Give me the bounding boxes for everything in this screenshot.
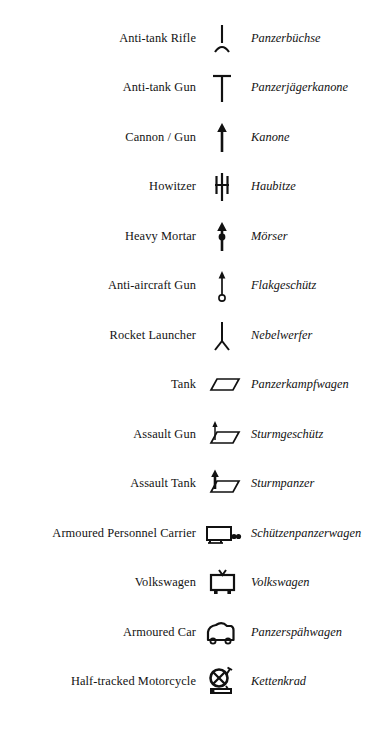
legend-row: Howitzer Haubitze (0, 163, 390, 213)
armoured-car-symbol (196, 610, 248, 656)
german-label: Panzerbüchse (248, 32, 390, 46)
legend-row: Armoured Car Panzerspähwagen (0, 608, 390, 658)
english-label: Armoured Personnel Carrier (0, 527, 196, 541)
german-label: Panzerjägerkanone (248, 81, 390, 95)
english-label: Anti-aircraft Gun (0, 279, 196, 293)
english-label: Howitzer (0, 180, 196, 194)
english-label: Armoured Car (0, 626, 196, 640)
german-label: Kettenkrad (248, 675, 390, 689)
english-label: Tank (0, 378, 196, 392)
english-label: Anti-tank Gun (0, 81, 196, 95)
howitzer-symbol (196, 164, 248, 210)
legend-row: Assault Gun Sturmgeschütz (0, 410, 390, 460)
english-label: Volkswagen (0, 576, 196, 590)
armoured-personnel-carrier-symbol (196, 511, 248, 557)
half-tracked-motorcycle-symbol (196, 659, 248, 705)
cannon-gun-symbol (196, 115, 248, 161)
symbol-legend-table: Anti-tank Rifle Panzerbüchse Anti-tank G… (0, 0, 390, 740)
legend-row: Anti-aircraft Gun Flakgeschütz (0, 262, 390, 312)
legend-row: Heavy Mortar Mörser (0, 212, 390, 262)
legend-row: Rocket Launcher Nebelwerfer (0, 311, 390, 361)
legend-row: Armoured Personnel Carrier Schützenpanze… (0, 509, 390, 559)
german-label: Schützenpanzerwagen (248, 527, 390, 541)
german-label: Volkswagen (248, 576, 390, 590)
tank-symbol (196, 362, 248, 408)
german-label: Mörser (248, 230, 390, 244)
english-label: Assault Tank (0, 477, 196, 491)
english-label: Half-tracked Motorcycle (0, 675, 196, 689)
legend-row: Anti-tank Rifle Panzerbüchse (0, 14, 390, 64)
german-label: Sturmgeschütz (248, 428, 390, 442)
english-label: Assault Gun (0, 428, 196, 442)
german-label: Haubitze (248, 180, 390, 194)
german-label: Sturmpanzer (248, 477, 390, 491)
legend-row: Cannon / Gun Kanone (0, 113, 390, 163)
legend-row: Anti-tank Gun Panzerjägerkanone (0, 64, 390, 114)
german-label: Panzerkampfwagen (248, 378, 390, 392)
anti-tank-gun-symbol (196, 65, 248, 111)
heavy-mortar-symbol (196, 214, 248, 260)
german-label: Flakgeschütz (248, 279, 390, 293)
legend-row: Assault Tank Sturmpanzer (0, 460, 390, 510)
english-label: Rocket Launcher (0, 329, 196, 343)
assault-tank-symbol (196, 461, 248, 507)
german-label: Panzerspähwagen (248, 626, 390, 640)
volkswagen-symbol (196, 560, 248, 606)
legend-row: Half-tracked Motorcycle Kettenkrad (0, 658, 390, 708)
assault-gun-symbol (196, 412, 248, 458)
german-label: Nebelwerfer (248, 329, 390, 343)
english-label: Cannon / Gun (0, 131, 196, 145)
legend-row: Tank Panzerkampfwagen (0, 361, 390, 411)
rocket-launcher-symbol (196, 313, 248, 359)
english-label: Heavy Mortar (0, 230, 196, 244)
german-label: Kanone (248, 131, 390, 145)
legend-row: Volkswagen Volkswagen (0, 559, 390, 609)
anti-tank-rifle-symbol (196, 16, 248, 62)
anti-aircraft-gun-symbol (196, 263, 248, 309)
english-label: Anti-tank Rifle (0, 32, 196, 46)
